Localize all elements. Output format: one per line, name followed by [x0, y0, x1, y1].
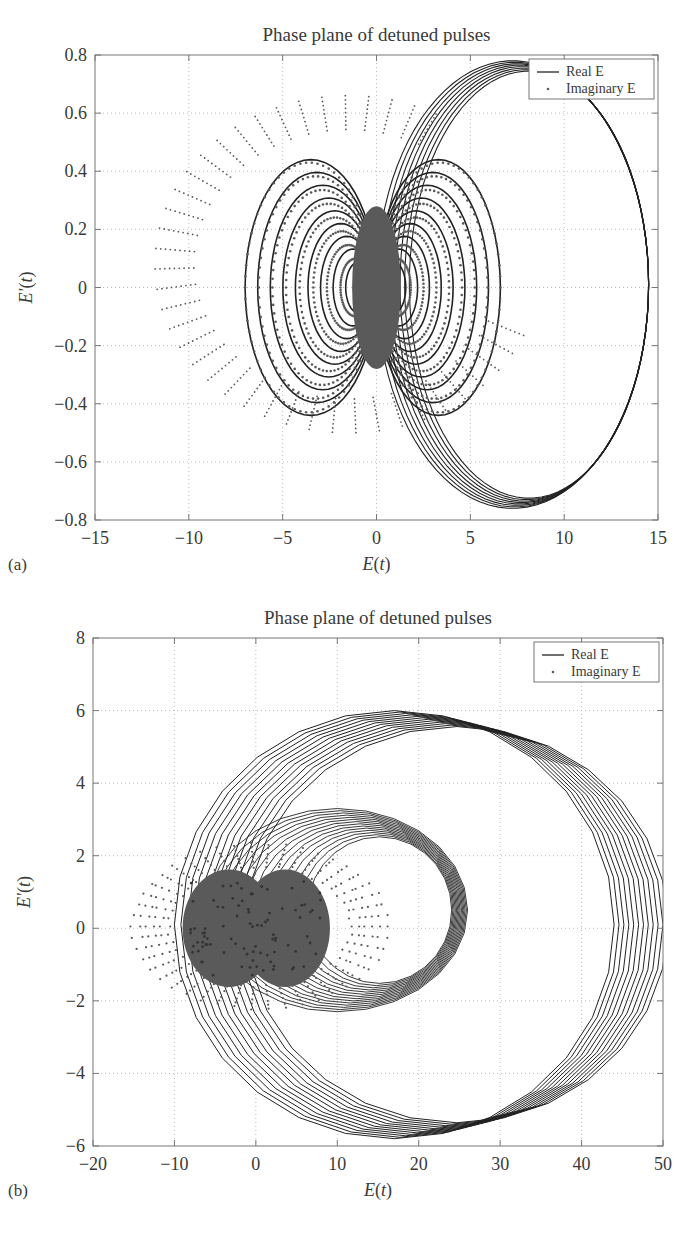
y-axis-label: E'(t) [14, 876, 35, 909]
y-tick-label: 0.4 [65, 161, 88, 181]
y-tick-label: 6 [76, 701, 85, 721]
chart-panel-b: Phase plane of detuned pulses−20−1001020… [0, 600, 695, 1247]
legend-real-label: Real E [566, 64, 604, 79]
panel-label: (a) [8, 555, 27, 574]
x-tick-label: −5 [273, 528, 292, 548]
series-imaginary-e [154, 95, 524, 434]
phase-plane-chart-a: Phase plane of detuned pulses−15−10−5051… [0, 0, 695, 600]
x-tick-label: 30 [491, 1154, 509, 1174]
y-tick-label: 2 [76, 846, 85, 866]
x-tick-label: 0 [372, 528, 381, 548]
legend: Real EImaginary E [529, 59, 654, 99]
x-tick-label: 15 [649, 528, 667, 548]
panel-label: (b) [8, 1181, 28, 1200]
y-tick-label: −2 [66, 991, 85, 1011]
x-axis-label: E(t) [361, 554, 390, 575]
x-tick-label: −15 [81, 528, 109, 548]
y-tick-label: −6 [66, 1136, 85, 1156]
legend: Real EImaginary E [534, 642, 659, 682]
y-tick-label: −0.2 [54, 336, 87, 356]
y-tick-label: 0.8 [65, 45, 88, 65]
y-tick-label: −0.6 [54, 452, 87, 472]
y-tick-label: 0.2 [65, 219, 88, 239]
y-tick-label: −0.8 [54, 510, 87, 530]
x-tick-label: 50 [654, 1154, 672, 1174]
x-tick-label: 5 [466, 528, 475, 548]
x-tick-label: −20 [79, 1154, 107, 1174]
x-tick-label: 20 [410, 1154, 428, 1174]
phase-plane-chart-b: Phase plane of detuned pulses−20−1001020… [0, 600, 695, 1247]
x-tick-label: 10 [328, 1154, 346, 1174]
chart-panel-a: Phase plane of detuned pulses−15−10−5051… [0, 0, 695, 600]
x-tick-label: −10 [175, 528, 203, 548]
y-tick-label: 4 [76, 773, 85, 793]
y-tick-label: 0.6 [65, 103, 88, 123]
y-tick-label: 8 [76, 628, 85, 648]
chart-title: Phase plane of detuned pulses [264, 607, 492, 628]
x-tick-label: 0 [251, 1154, 260, 1174]
chart-title: Phase plane of detuned pulses [263, 24, 491, 45]
legend-imaginary-label: Imaginary E [566, 81, 636, 96]
legend-imaginary-label: Imaginary E [571, 664, 641, 679]
axis-ticks: −20−100102030405086420−2−4−6 [66, 628, 672, 1174]
plot-area [154, 61, 648, 508]
legend-dot-icon [552, 671, 555, 674]
y-tick-label: 0 [76, 918, 85, 938]
legend-real-label: Real E [571, 647, 609, 662]
y-tick-label: −0.4 [54, 394, 87, 414]
legend-dot-icon [547, 88, 550, 91]
y-tick-label: 0 [78, 278, 87, 298]
x-axis-label: E(t) [363, 1180, 392, 1201]
y-axis-label: E'(t) [16, 272, 37, 305]
series-real-e [245, 61, 648, 508]
y-tick-label: −4 [66, 1063, 85, 1083]
plot-area [129, 711, 668, 1139]
x-tick-label: −10 [160, 1154, 188, 1174]
x-tick-label: 40 [573, 1154, 591, 1174]
x-tick-label: 10 [555, 528, 573, 548]
